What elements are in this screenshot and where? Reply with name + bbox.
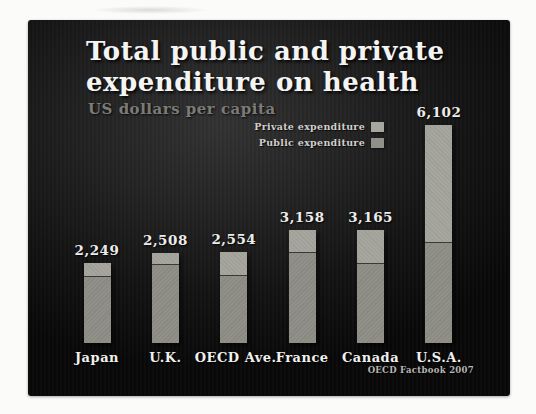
bar-slot-japan: 2,249Japan <box>68 242 126 343</box>
bar-u-s-a <box>425 125 452 343</box>
value-label-canada: 3,165 <box>348 209 393 225</box>
slide: Total public and private expenditure on … <box>28 20 510 396</box>
bar-slot-oecd-ave: 2,554OECD Ave. <box>205 231 263 343</box>
public-segment-oecd-ave <box>220 275 247 343</box>
axis-label-u-k: U.K. <box>126 350 204 365</box>
public-segment-u-k <box>152 264 179 343</box>
axis-label-france: France <box>263 350 341 365</box>
bar-japan <box>84 263 111 343</box>
public-segment-japan <box>84 276 111 343</box>
axis-label-oecd-ave: OECD Ave. <box>195 350 273 365</box>
bar-slot-u-k: 2,508U.K. <box>136 232 194 343</box>
bar-france <box>289 230 316 343</box>
public-segment-canada <box>357 263 384 343</box>
bar-slot-france: 3,158France <box>273 209 331 343</box>
bar-slot-u-s-a: 6,102U.S.A. <box>410 104 468 343</box>
bar-u-k <box>152 253 179 343</box>
public-segment-u-s-a <box>425 242 452 343</box>
bar-canada <box>357 230 384 343</box>
chart-title-line2: expenditure on health <box>86 67 445 98</box>
bar-chart-plot-area: 2,249Japan2,508U.K.2,554OECD Ave.3,158Fr… <box>68 114 468 343</box>
photo-artifact-smudge <box>90 6 210 14</box>
chart-title-line1: Total public and private <box>86 36 445 67</box>
public-segment-france <box>289 252 316 343</box>
axis-label-canada: Canada <box>332 350 410 365</box>
chart-title: Total public and private expenditure on … <box>86 36 445 98</box>
axis-label-u-s-a: U.S.A. <box>400 350 478 365</box>
value-label-u-k: 2,508 <box>143 232 188 248</box>
bar-slot-canada: 3,165Canada <box>342 209 400 343</box>
value-label-france: 3,158 <box>280 209 325 225</box>
value-label-japan: 2,249 <box>75 242 120 258</box>
source-credit: OECD Factbook 2007 <box>368 365 474 375</box>
axis-label-japan: Japan <box>58 350 136 365</box>
value-label-oecd-ave: 2,554 <box>211 231 256 247</box>
value-label-u-s-a: 6,102 <box>417 104 462 120</box>
bar-oecd-ave <box>220 252 247 343</box>
